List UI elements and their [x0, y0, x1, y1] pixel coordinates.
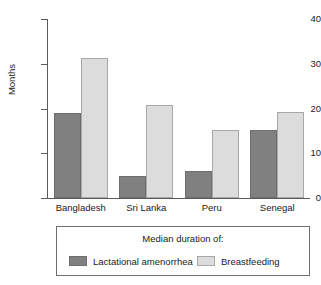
legend-label: Lactational amenorrhea	[93, 256, 193, 267]
y-axis-tick	[41, 64, 47, 65]
bar	[119, 176, 146, 198]
bar	[185, 171, 212, 198]
y-axis-tick	[41, 198, 47, 199]
x-axis-category-label: Senegal	[245, 202, 311, 213]
legend-swatch-icon	[69, 256, 87, 266]
y-axis-tick	[41, 109, 47, 110]
bar	[81, 58, 108, 199]
x-axis-category-label: Bangladesh	[48, 202, 114, 213]
y-axis-tick	[41, 153, 47, 154]
legend-entry: Breastfeeding	[197, 253, 280, 269]
x-axis-category-label: Sri Lanka	[114, 202, 180, 213]
y-axis-tick	[41, 19, 47, 20]
legend-entries: Lactational amenorrheaBreastfeeding	[57, 253, 309, 269]
x-axis-line	[47, 198, 310, 199]
bar	[212, 130, 239, 198]
plot-area	[48, 19, 310, 198]
x-axis-category-label: Peru	[179, 202, 245, 213]
bar-chart: Months 010203040 BangladeshSri LankaPeru…	[0, 0, 321, 285]
legend-entry: Lactational amenorrhea	[69, 253, 193, 269]
legend-label: Breastfeeding	[221, 256, 280, 267]
legend-swatch-icon	[197, 256, 215, 266]
bar	[146, 105, 173, 198]
y-axis-title: Months	[6, 35, 17, 125]
bar	[250, 130, 277, 198]
legend-title: Median duration of:	[57, 233, 309, 244]
legend: Median duration of: Lactational amenorrh…	[56, 226, 310, 276]
bar	[54, 113, 81, 198]
bar	[277, 112, 304, 198]
